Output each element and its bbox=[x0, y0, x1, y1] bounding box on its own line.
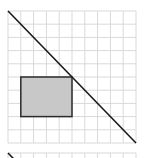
second-grid-partial bbox=[8, 153, 136, 158]
second-diagonal-line bbox=[8, 153, 20, 158]
diagram-canvas bbox=[0, 0, 144, 158]
shaded-rectangle bbox=[21, 77, 72, 117]
